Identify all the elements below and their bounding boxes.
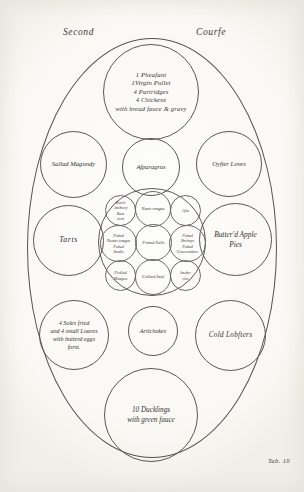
potted-eells-dish[interactable]: Potted Eells xyxy=(135,224,172,261)
neats-tongue-dish[interactable]: Neats tongue xyxy=(135,191,171,227)
potted-neats-tongue-and-smelts-dish[interactable]: Potted Neates tongue Potted Smelts xyxy=(100,225,137,262)
sallad-magundy-dish[interactable]: Sallad Magundy xyxy=(40,131,107,198)
dish-label: 4 Soles fried and 4 small Loaves with bu… xyxy=(48,319,99,352)
small-dish-label: Afia xyxy=(181,208,190,213)
potted-shrimps-and-cowcombers-dish[interactable]: Potted Shrimps Potted Cowcombers xyxy=(169,225,206,262)
dish-label: Artichokes xyxy=(138,327,168,335)
dish-label: Sallad Magundy xyxy=(50,160,97,168)
small-dish-label: Ancho- vies xyxy=(179,270,193,280)
dish-label: Cold Lobfters xyxy=(207,331,255,340)
small-dish-label: Collard beef xyxy=(141,274,165,280)
small-dish-label: Potted Eells xyxy=(141,240,165,246)
butterd-apple-pies-dish[interactable]: Butter'd Apple Pies xyxy=(199,203,272,276)
roast-fowl-dish[interactable]: 1 Pheafant 1Virgin Pullet 4 Partridges 4… xyxy=(103,44,199,140)
dish-label: 10 Ducklings with green fauce xyxy=(125,405,177,426)
anchovies-dish[interactable]: Ancho- vies xyxy=(170,260,201,291)
artichokes-dish[interactable]: Artichokes xyxy=(128,306,178,356)
small-dish-label: Potted Neates tongue Potted Smelts xyxy=(106,233,131,253)
pickled-mangoe-dish[interactable]: Pickled Mangoe xyxy=(105,260,136,291)
dish-label: Afparagrus xyxy=(134,163,167,171)
ducklings-dish[interactable]: 10 Ducklings with green fauce xyxy=(104,368,198,462)
asia-dish[interactable]: Afia xyxy=(170,195,201,226)
engraving-page: Second Courfe 1 Pheafant 1Virgin Pullet … xyxy=(0,0,304,492)
tarts-dish[interactable]: Tarts xyxy=(33,205,104,276)
dish-label: Butter'd Apple Pies xyxy=(212,230,259,250)
small-dish-label: Potted Shrimps Potted Cowcombers xyxy=(176,233,199,253)
small-dish-label: Rowls Anchovy Beet root xyxy=(112,200,128,220)
small-dish-label: Pickled Mangoe xyxy=(113,270,128,280)
rowls-anchovy-beetroot-dish[interactable]: Rowls Anchovy Beet root xyxy=(105,195,136,226)
collard-beef-dish[interactable]: Collard beef xyxy=(135,259,171,295)
cold-lobsters-dish[interactable]: Cold Lobfters xyxy=(195,300,266,371)
dish-label: Oyfter Loves xyxy=(210,160,247,168)
soles-and-loaves-dish[interactable]: 4 Soles fried and 4 small Loaves with bu… xyxy=(39,300,109,370)
dish-label: 1 Pheafant 1Virgin Pullet 4 Partridges 4… xyxy=(113,71,188,113)
small-dish-label: Neats tongue xyxy=(140,206,165,212)
oyster-loaves-dish[interactable]: Oyfter Loves xyxy=(196,131,262,197)
dish-label: Tarts xyxy=(57,235,80,245)
centre-potted-meats-cluster: Rowls Anchovy Beet root Neats tongue Afi… xyxy=(98,188,206,296)
heading-second: Second xyxy=(63,27,94,37)
plate-caption: Tab. 10 xyxy=(268,457,290,464)
heading-course: Courfe xyxy=(196,27,226,37)
